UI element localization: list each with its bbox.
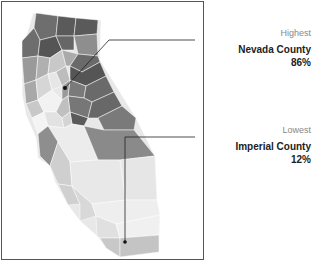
nevada-county-marker — [63, 86, 67, 90]
california-county-map — [0, 0, 207, 263]
imperial-county — [120, 235, 159, 257]
imperial-county-marker — [123, 240, 127, 244]
